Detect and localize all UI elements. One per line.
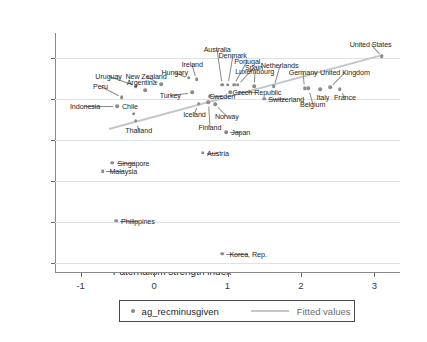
x-tick-mark <box>81 273 82 277</box>
gridline <box>55 263 400 264</box>
x-tick-label: 0 <box>139 280 169 291</box>
legend-fit-label: Fitted values <box>297 306 351 317</box>
data-point-label: Philippines <box>121 216 155 225</box>
data-point-label: United Kingdom <box>320 68 370 77</box>
legend-fit-line <box>251 310 289 312</box>
x-tick-label: 1 <box>213 280 243 291</box>
x-tick-label: -1 <box>66 280 96 291</box>
y-tick-mark <box>51 140 55 141</box>
data-point-label: Peru <box>93 82 108 91</box>
data-point-marker <box>306 87 310 91</box>
data-point-marker <box>195 78 199 82</box>
y-tick-mark <box>51 58 55 59</box>
data-point-label: Indonesia <box>70 102 100 111</box>
data-point-marker <box>101 169 105 173</box>
data-point-marker <box>143 88 147 92</box>
data-point-marker <box>224 130 228 134</box>
data-point-label: Thailand <box>125 125 152 134</box>
data-point-marker <box>132 112 136 116</box>
gridline <box>55 181 400 182</box>
data-point-marker <box>226 83 230 87</box>
y-tick-mark <box>51 263 55 264</box>
data-point-marker <box>160 82 164 86</box>
data-point-label: Italy <box>317 93 330 102</box>
data-point-marker <box>213 102 217 106</box>
data-point-marker <box>110 161 114 165</box>
data-point-label: United States <box>350 40 392 49</box>
data-point-label: Uruguay <box>95 72 121 81</box>
data-point-marker <box>190 90 194 94</box>
data-point-marker <box>318 87 322 91</box>
data-point-label: Chile <box>122 102 138 111</box>
data-point-label: Ireland <box>182 60 203 69</box>
data-point-marker <box>197 102 201 106</box>
data-point-label: Korea, Rep. <box>229 249 266 258</box>
x-tick-mark <box>374 273 375 277</box>
data-point-label: Finland <box>198 122 221 131</box>
data-point-label: Germany <box>289 68 318 77</box>
data-point-marker <box>201 151 205 155</box>
data-point-marker <box>328 85 332 89</box>
data-point-marker <box>221 252 225 256</box>
x-tick-mark <box>228 273 229 277</box>
data-point-marker <box>380 55 384 59</box>
x-tick-mark <box>301 273 302 277</box>
x-tick-label: 3 <box>359 280 389 291</box>
legend-series-label: ag_recminusgiven <box>142 306 219 317</box>
data-point-marker <box>262 97 266 101</box>
data-point-marker <box>236 83 240 87</box>
data-point-marker <box>114 219 118 223</box>
legend-series-marker <box>131 309 135 313</box>
data-point-marker <box>272 85 276 89</box>
data-point-marker <box>252 85 256 89</box>
data-point-label: Malaysia <box>109 167 137 176</box>
x-tick-label: 2 <box>286 280 316 291</box>
x-tick-mark <box>154 273 155 277</box>
data-point-label: Switzerland <box>268 94 304 103</box>
data-point-label: Japan <box>231 128 250 137</box>
data-point-marker <box>338 87 342 91</box>
data-point-label: Norway <box>215 111 239 120</box>
data-point-label: Turkey <box>160 90 181 99</box>
plot-area: IndonesiaPeruUruguayChileThailandArgenti… <box>55 33 400 273</box>
data-point-marker <box>134 119 138 123</box>
data-point-marker <box>187 76 191 80</box>
data-point-marker <box>120 96 124 100</box>
y-tick-mark <box>51 181 55 182</box>
chart-legend: ag_recminusgiven Fitted values <box>119 300 355 322</box>
data-point-marker <box>207 100 211 104</box>
data-point-label: Austria <box>207 148 229 157</box>
y-tick-mark <box>51 222 55 223</box>
gridline <box>55 222 400 223</box>
y-tick-mark <box>51 99 55 100</box>
scatter-chart: Percentage of concessions received minus… <box>0 0 427 342</box>
data-point-marker <box>221 83 225 87</box>
data-point-label: Iceland <box>183 109 205 118</box>
data-point-marker <box>116 105 120 109</box>
data-point-label: France <box>334 93 356 102</box>
gridline <box>55 140 400 141</box>
